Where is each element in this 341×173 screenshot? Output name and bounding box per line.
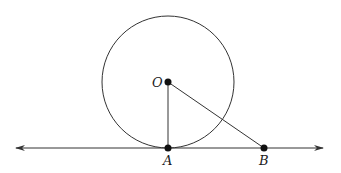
- label-B: B: [258, 153, 269, 168]
- segment-OB: [168, 82, 264, 148]
- point-O: [165, 79, 172, 86]
- point-A: [165, 145, 172, 152]
- label-A: A: [162, 153, 172, 168]
- label-O: O: [152, 75, 163, 90]
- point-B: [261, 145, 268, 152]
- diagram-canvas: O A B: [0, 0, 341, 173]
- tangent-diagram: O A B: [0, 0, 341, 173]
